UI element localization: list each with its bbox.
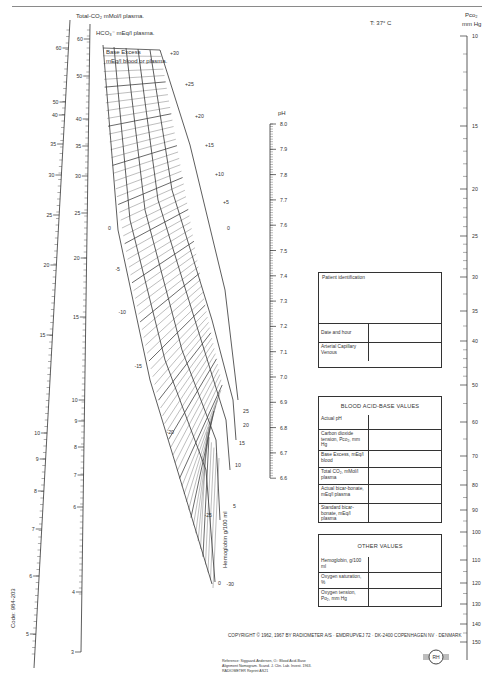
acid-base-row-value[interactable] <box>369 485 441 503</box>
svg-text:20: 20 <box>472 186 478 192</box>
other-values-row-label: Hemoglobin, g/100 ml <box>319 557 369 572</box>
svg-text:7.8: 7.8 <box>280 172 287 178</box>
svg-text:7.0: 7.0 <box>280 374 287 380</box>
acid-base-row-label: Actual pH <box>319 415 369 429</box>
acid-base-row-label: Base Excess, mEq/l blood <box>319 451 369 467</box>
other-values-row[interactable]: Hemoglobin, g/100 ml <box>319 557 441 572</box>
patient-identification-label: Patient identification <box>319 273 368 323</box>
svg-text:60: 60 <box>472 419 478 425</box>
other-values-title: OTHER VALUES <box>319 535 441 557</box>
svg-text:140: 140 <box>472 621 481 627</box>
code-label: Code: 984-203 <box>10 588 17 628</box>
svg-text:7.7: 7.7 <box>280 197 287 203</box>
svg-text:25: 25 <box>243 408 249 414</box>
svg-text:15: 15 <box>239 440 245 446</box>
svg-text:7: 7 <box>74 472 77 478</box>
temperature-label: T: 37° C <box>370 20 391 27</box>
svg-text:50: 50 <box>472 382 478 388</box>
svg-text:0: 0 <box>108 225 111 231</box>
svg-text:35: 35 <box>472 308 478 314</box>
acid-base-row[interactable]: Standard bicar-bonate, mEq/l plasma <box>319 503 441 522</box>
acid-base-row-value[interactable] <box>369 468 441 484</box>
svg-text:+10: +10 <box>215 171 224 177</box>
acid-base-row-label: Standard bicar-bonate, mEq/l plasma <box>319 504 369 522</box>
svg-text:0: 0 <box>227 225 230 231</box>
svg-text:110: 110 <box>472 557 480 563</box>
svg-text:+30: +30 <box>170 50 179 56</box>
svg-text:7.4: 7.4 <box>280 273 287 279</box>
acid-base-row-label: Actual bicar-bonate, mEq/l plasma <box>319 485 369 503</box>
acid-base-values-title: BLOOD ACID-BASE VALUES <box>319 397 441 415</box>
acid-base-row-value[interactable] <box>369 451 441 467</box>
patient-identification-table: Patient identification Date and hour Art… <box>318 272 442 368</box>
svg-text:6.6: 6.6 <box>280 475 287 481</box>
base-excess-grid <box>103 45 238 588</box>
other-values-row-value[interactable] <box>369 589 441 606</box>
acid-base-row-value[interactable] <box>369 430 441 450</box>
acid-base-row[interactable]: Actual bicar-bonate, mEq/l plasma <box>319 484 441 503</box>
svg-text:20: 20 <box>44 262 50 268</box>
svg-text:90: 90 <box>472 507 478 513</box>
sample-type-value[interactable] <box>369 343 441 361</box>
svg-text:100: 100 <box>472 529 481 535</box>
acid-base-row[interactable]: Total CO₂, mMol/l plasma <box>319 467 441 484</box>
svg-text:25: 25 <box>472 233 478 239</box>
svg-text:RH: RH <box>432 654 440 660</box>
radiometer-logo-icon: RH <box>423 648 449 666</box>
acid-base-row[interactable]: Actual pH <box>319 415 441 429</box>
svg-text:+5: +5 <box>223 199 229 205</box>
patient-identification-row[interactable]: Patient identification <box>319 273 441 323</box>
base-excess-title-line2: mEq/l blood or plasma. <box>106 58 167 65</box>
sample-type-label: Arterial Capillary Venous <box>319 343 369 361</box>
pco2-title-line1: Pco₂ <box>465 12 478 19</box>
other-values-row-label: Oxygen saturation, % <box>319 573 369 588</box>
svg-text:6: 6 <box>29 573 32 579</box>
svg-text:30: 30 <box>49 172 55 178</box>
other-values-row-value[interactable] <box>369 557 441 572</box>
svg-text:5: 5 <box>26 631 29 637</box>
svg-text:150: 150 <box>472 639 481 645</box>
svg-text:10: 10 <box>472 33 478 39</box>
date-hour-value[interactable] <box>369 324 441 342</box>
acid-base-values-table: BLOOD ACID-BASE VALUES Actual pHCarbon d… <box>318 396 442 523</box>
hemoglobin-title: Hemoglobin g/100 ml <box>222 511 229 568</box>
pco2-title-line2: mm Hg <box>462 21 481 28</box>
svg-text:6.7: 6.7 <box>280 450 287 456</box>
svg-text:35: 35 <box>50 141 56 147</box>
svg-text:30: 30 <box>472 274 478 280</box>
copyright-text: COPYRIGHT © 1962, 1967 BY RADIOMETER A/S… <box>228 633 461 638</box>
svg-text:7.2: 7.2 <box>280 323 287 329</box>
other-values-row[interactable]: Oxygen saturation, % <box>319 572 441 588</box>
date-hour-row[interactable]: Date and hour <box>319 323 441 342</box>
svg-text:15: 15 <box>40 332 46 338</box>
acid-base-row-label: Carbon dioxide tension, Pco₂, mm Hg <box>319 430 369 450</box>
other-values-table: OTHER VALUES Hemoglobin, g/100 mlOxygen … <box>318 534 442 607</box>
svg-text:-20: -20 <box>167 429 175 435</box>
svg-text:20: 20 <box>74 255 80 261</box>
svg-text:+20: +20 <box>195 113 204 119</box>
svg-text:25: 25 <box>46 212 52 218</box>
svg-text:6.9: 6.9 <box>280 399 287 405</box>
svg-text:50: 50 <box>53 99 59 105</box>
svg-text:70: 70 <box>472 453 478 459</box>
svg-text:+15: +15 <box>205 142 214 148</box>
radiometer-logo: RH <box>423 648 449 666</box>
acid-base-row-value[interactable] <box>369 504 441 522</box>
acid-base-row-value[interactable] <box>369 415 441 429</box>
svg-text:-25: -25 <box>205 512 213 518</box>
other-values-row-value[interactable] <box>369 573 441 588</box>
svg-text:50: 50 <box>76 73 82 79</box>
svg-text:40: 40 <box>52 112 58 118</box>
svg-text:+25: +25 <box>185 81 194 87</box>
svg-text:4: 4 <box>72 589 75 595</box>
svg-text:80: 80 <box>472 482 478 488</box>
acid-base-row[interactable]: Carbon dioxide tension, Pco₂, mm Hg <box>319 429 441 450</box>
other-values-row-label: Oxygen tension, Po₂, mm Hg <box>319 589 369 606</box>
svg-text:25: 25 <box>75 210 81 216</box>
ph-title: pH <box>278 110 286 117</box>
svg-text:60: 60 <box>77 36 83 42</box>
svg-text:-10: -10 <box>119 309 127 315</box>
acid-base-row[interactable]: Base Excess, mEq/l blood <box>319 450 441 467</box>
sample-type-row[interactable]: Arterial Capillary Venous <box>319 342 441 361</box>
other-values-row[interactable]: Oxygen tension, Po₂, mm Hg <box>319 588 441 606</box>
